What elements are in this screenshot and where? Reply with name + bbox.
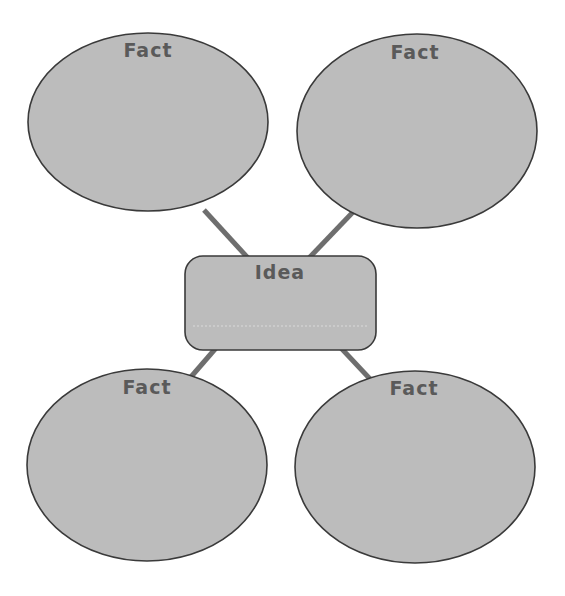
connector-bottom-right <box>341 348 371 380</box>
connector-top-left <box>204 210 248 258</box>
fact-node-top-right[interactable] <box>297 34 537 228</box>
connector-top-right <box>309 211 354 258</box>
fact-label-bottom-left: Fact <box>87 377 207 397</box>
fact-label-bottom-right: Fact <box>354 378 474 398</box>
fact-label-top-left: Fact <box>88 40 208 60</box>
fact-node-bottom-right[interactable] <box>295 371 535 563</box>
fact-label-top-right: Fact <box>355 42 475 62</box>
idea-label: Idea <box>220 262 340 282</box>
connector-bottom-left <box>190 348 216 378</box>
